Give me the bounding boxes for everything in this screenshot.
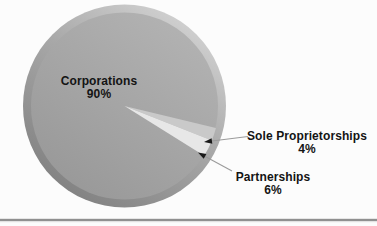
label-corporations: Corporations 90% [39,75,159,101]
label-corporations-pct: 90% [39,88,159,101]
bottom-rule-highlight [0,221,377,222]
label-sole-proprietorships-pct: 4% [237,143,377,156]
chart-area: Corporations 90% Sole Proprietorships 4%… [0,0,377,226]
label-partnerships: Partnerships 6% [203,171,343,197]
label-sole-proprietorships: Sole Proprietorships 4% [237,130,377,156]
bottom-rule [0,219,377,221]
label-partnerships-pct: 6% [203,184,343,197]
